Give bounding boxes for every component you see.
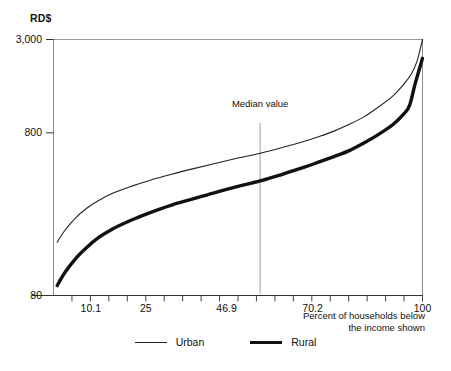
x-axis-caption-line1: Percent of households below <box>245 310 425 322</box>
chart-legend: Urban Rural <box>0 336 451 348</box>
legend-label-urban: Urban <box>176 336 205 348</box>
legend-swatch-urban-icon <box>135 342 167 343</box>
legend-swatch-rural-icon <box>250 341 282 344</box>
y-tick-label: 3,000 <box>16 33 42 45</box>
legend-item-rural: Rural <box>250 336 316 348</box>
legend-label-rural: Rural <box>291 336 316 348</box>
x-tick-label: 46.9 <box>216 302 237 314</box>
median-value-annotation: Median value <box>232 98 289 294</box>
x-axis-caption-line2: the income shown <box>245 322 425 334</box>
income-distribution-chart: RD$ 3,00080080 10.12546.970.2100 Median … <box>0 0 451 371</box>
y-axis-ticks: 3,00080080 <box>16 33 54 301</box>
legend-item-urban: Urban <box>135 336 205 348</box>
series-line-rural <box>57 58 422 285</box>
median-value-label: Median value <box>232 98 289 109</box>
data-series-group <box>57 40 422 286</box>
y-tick-label: 80 <box>30 289 42 301</box>
y-tick-label: 800 <box>24 126 42 138</box>
x-tick-label: 25 <box>140 302 152 314</box>
x-axis-ticks <box>72 296 423 302</box>
x-axis-caption: Percent of households below the income s… <box>245 310 425 333</box>
x-tick-label: 10.1 <box>81 302 102 314</box>
